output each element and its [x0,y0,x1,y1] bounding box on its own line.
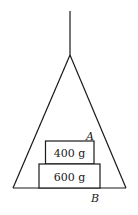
point-b-label: B [90,192,99,205]
block-600g-label: 600 g [54,171,86,184]
block-400g-label: 400 g [54,147,86,160]
point-a-label: A [85,130,94,143]
hanger-diagram: 400 g 600 g A B [0,0,138,215]
